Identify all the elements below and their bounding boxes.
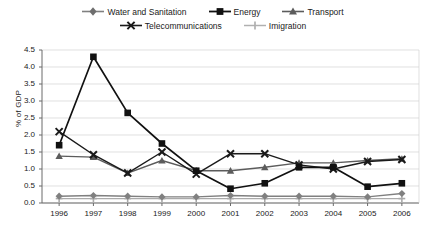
diamond-marker-icon <box>193 193 200 200</box>
data-point-marker <box>193 167 200 174</box>
plot-canvas <box>0 0 426 233</box>
square-marker-icon <box>261 180 268 187</box>
square-marker-icon <box>90 54 97 61</box>
data-point-marker <box>56 128 63 135</box>
data-point-marker <box>261 180 268 187</box>
data-point-marker <box>399 180 406 187</box>
data-point-marker <box>364 193 371 200</box>
diamond-marker-icon <box>364 193 371 200</box>
data-point-marker <box>296 164 303 171</box>
plot-area: % of GDP 0.00.51.01.52.02.53.03.54.04.5 … <box>0 0 426 233</box>
data-point-marker <box>193 193 200 200</box>
data-point-marker <box>159 140 166 147</box>
square-marker-icon <box>364 183 371 190</box>
square-marker-icon <box>159 140 166 147</box>
chart-container: Water and Sanitation Energy <box>0 0 426 233</box>
data-point-marker <box>398 190 405 197</box>
data-point-marker <box>227 185 234 192</box>
square-marker-icon <box>193 167 200 174</box>
diamond-marker-icon <box>398 190 405 197</box>
square-marker-icon <box>227 185 234 192</box>
data-point-marker <box>158 193 165 200</box>
data-point-marker <box>56 142 63 149</box>
data-point-marker <box>90 54 97 61</box>
square-marker-icon <box>296 164 303 171</box>
square-marker-icon <box>330 164 337 171</box>
square-marker-icon <box>56 142 63 149</box>
square-marker-icon <box>399 180 406 187</box>
diamond-marker-icon <box>158 193 165 200</box>
triangle-marker-icon <box>158 157 165 164</box>
data-point-marker <box>330 164 337 171</box>
square-marker-icon <box>124 110 131 117</box>
data-point-marker <box>364 183 371 190</box>
data-point-marker <box>158 157 165 164</box>
data-point-marker <box>124 110 131 117</box>
